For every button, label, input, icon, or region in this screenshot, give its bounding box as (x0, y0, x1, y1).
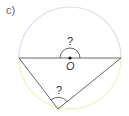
center-label: O (66, 60, 75, 72)
inscribed-angle-label: ? (56, 84, 62, 96)
upper-arc (19, 7, 121, 58)
inscribed-angle-arc (51, 97, 67, 101)
central-angle-label: ? (67, 35, 73, 47)
chord-left (19, 58, 58, 109)
circle-diagram: ? O ? (0, 0, 129, 116)
